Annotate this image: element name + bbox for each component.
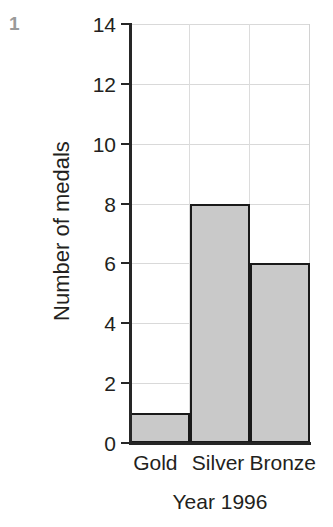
y-axis-tick-label: 4: [80, 313, 116, 334]
gridline-horizontal: [130, 84, 310, 85]
x-axis-line: [129, 442, 311, 445]
bar-bronze: [250, 263, 310, 443]
y-axis-tick: [121, 83, 130, 85]
y-axis-tick-label: 10: [80, 134, 116, 155]
y-axis-tick: [121, 382, 130, 384]
y-axis-tick-label: 0: [80, 433, 116, 454]
category-label-gold: Gold: [124, 450, 187, 480]
y-axis-tick: [121, 203, 130, 205]
y-axis-tick-label: 8: [80, 194, 116, 215]
y-axis-title: Number of medals: [51, 116, 73, 346]
category-label-silver: Silver: [187, 450, 250, 480]
gridline-horizontal: [130, 144, 310, 145]
y-axis-tick-label: 14: [80, 14, 116, 35]
y-axis-tick: [121, 143, 130, 145]
y-axis-tick: [121, 23, 130, 25]
bar-gold: [130, 413, 190, 443]
y-axis-tick-labels: 02468101214: [80, 0, 116, 527]
y-axis-tick: [121, 442, 130, 444]
y-axis-tick-label: 12: [80, 74, 116, 95]
y-axis-tick: [121, 262, 130, 264]
y-axis-tick-label: 6: [80, 253, 116, 274]
y-axis-tick: [121, 322, 130, 324]
x-axis-category-labels: GoldSilverBronze: [124, 450, 316, 480]
y-axis-tick-label: 2: [80, 373, 116, 394]
bar-chart-figure: 1 02468101214 Number of medals GoldSilve…: [0, 0, 333, 527]
x-axis-title: Year 1996: [110, 489, 330, 514]
bar-silver: [190, 204, 250, 443]
question-number-label: 1: [9, 14, 20, 33]
category-label-bronze: Bronze: [249, 450, 316, 480]
gridline-horizontal: [130, 24, 310, 25]
plot-area: [130, 24, 310, 443]
